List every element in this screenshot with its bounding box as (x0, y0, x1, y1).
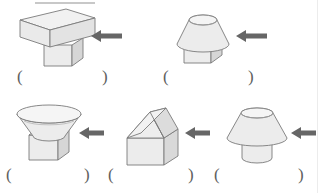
problem-item-4: ( ) (106, 96, 212, 193)
problem-item-2: ( ) (159, 0, 318, 96)
answer-paren-close-2: ) (248, 68, 254, 85)
problem-item-5: ( ) (212, 96, 318, 193)
answer-paren-close-4: ) (188, 166, 194, 183)
left-arrow-icon (0, 0, 159, 96)
answer-paren-close-3: ) (84, 166, 90, 183)
left-arrow-icon (106, 96, 212, 193)
answer-paren-open-2: ( (163, 68, 169, 85)
answer-paren-close-5: ) (298, 166, 304, 183)
answer-paren-open-4: ( (108, 166, 114, 183)
problem-item-1: ( ) (0, 0, 159, 96)
left-arrow-icon (0, 96, 106, 193)
answer-paren-open-1: ( (17, 68, 23, 85)
problem-item-3: ( ) (0, 96, 106, 193)
left-arrow-icon (159, 0, 318, 96)
worksheet-canvas: ( ) ( ) (0, 0, 318, 193)
answer-paren-open-3: ( (6, 166, 12, 183)
answer-paren-open-5: ( (214, 166, 220, 183)
answer-paren-close-1: ) (102, 68, 108, 85)
